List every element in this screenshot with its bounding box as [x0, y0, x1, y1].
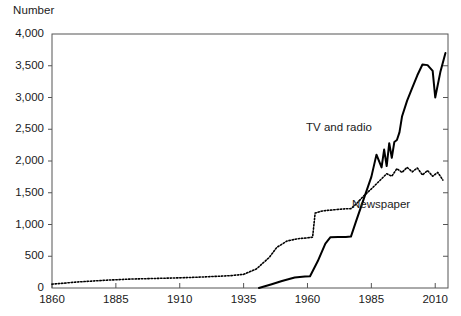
chart-figure: Number 05001,0001,5002,0002,5003,0003,50…	[0, 0, 461, 316]
x-tick-label: 1935	[221, 293, 267, 305]
plot-frame	[52, 34, 448, 288]
plot-canvas	[0, 0, 461, 316]
y-tick-label: 2,000	[0, 154, 44, 166]
x-tick-label: 1860	[29, 293, 75, 305]
y-tick-label: 1,500	[0, 186, 44, 198]
x-tick-label: 1960	[284, 293, 330, 305]
y-tick-label: 4,000	[0, 27, 44, 39]
y-tick-label: 500	[0, 249, 44, 261]
series-annotation-newspaper: Newspaper	[352, 198, 410, 210]
y-tick-label: 3,500	[0, 59, 44, 71]
y-tick-label: 2,500	[0, 122, 44, 134]
x-tick-label: 1985	[348, 293, 394, 305]
x-tick-label: 2010	[412, 293, 458, 305]
y-tick-label: 0	[0, 281, 44, 293]
x-tick-label: 1910	[157, 293, 203, 305]
series-annotation-tv-and-radio: TV and radio	[306, 121, 372, 133]
y-tick-label: 1,000	[0, 218, 44, 230]
x-tick-label: 1885	[93, 293, 139, 305]
y-tick-label: 3,000	[0, 91, 44, 103]
